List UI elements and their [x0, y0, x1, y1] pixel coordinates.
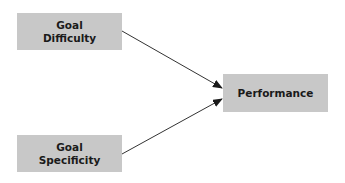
node-label-line1: Goal: [39, 141, 101, 154]
arrow-specificity-to-performance: [122, 99, 222, 154]
arrow-difficulty-to-performance: [122, 31, 222, 88]
node-label-line2: Specificity: [39, 154, 101, 167]
node-performance: Performance: [223, 74, 328, 112]
node-label-line2: Difficulty: [43, 32, 96, 45]
node-goal-specificity: Goal Specificity: [17, 135, 122, 172]
node-label-line1: Goal: [43, 19, 96, 32]
node-goal-difficulty: Goal Difficulty: [17, 13, 122, 50]
node-label: Performance: [238, 87, 314, 100]
